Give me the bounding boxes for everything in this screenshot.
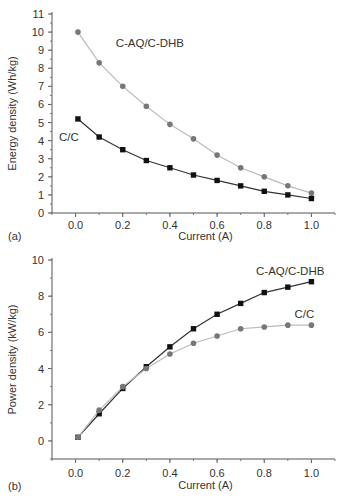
data-point-square: [191, 326, 196, 331]
data-point-circle: [167, 122, 173, 128]
x-tick-label: 0.4: [162, 219, 177, 231]
data-point-circle: [309, 322, 315, 328]
data-point-circle: [191, 136, 197, 142]
y-tick-label: 8: [38, 290, 44, 302]
data-point-circle: [309, 190, 315, 196]
y-tick-label: 9: [38, 44, 44, 56]
data-point-square: [214, 312, 219, 317]
data-point-circle: [120, 384, 126, 390]
data-point-circle: [285, 183, 291, 189]
y-tick-label: 2: [38, 399, 44, 411]
data-point-square: [120, 147, 125, 152]
data-point-circle: [238, 326, 244, 332]
x-tick-label: 1.0: [304, 219, 319, 231]
data-point-square: [238, 183, 243, 188]
series-label: C/C: [294, 308, 314, 320]
x-tick-label: 0.0: [68, 467, 83, 479]
y-tick-label: 6: [38, 98, 44, 110]
y-axis-label: Power density (kW/kg): [6, 304, 18, 414]
data-point-circle: [96, 407, 102, 413]
data-point-square: [285, 192, 290, 197]
x-tick-label: 0.2: [115, 467, 130, 479]
chart-panel-a: 012345678910110.00.20.40.60.81.0Current …: [6, 8, 335, 242]
x-tick-label: 0.8: [257, 219, 272, 231]
panel-label: (b): [8, 480, 21, 492]
y-tick-label: 11: [33, 8, 44, 20]
data-point-square: [75, 116, 80, 121]
series-line: [78, 282, 311, 438]
x-tick-label: 0.4: [162, 467, 177, 479]
x-tick-label: 1.0: [304, 467, 319, 479]
data-point-square: [191, 172, 196, 177]
data-point-circle: [75, 434, 81, 440]
y-tick-label: 7: [38, 80, 44, 92]
data-point-circle: [214, 333, 220, 339]
data-point-square: [214, 178, 219, 183]
data-point-square: [167, 344, 172, 349]
data-point-circle: [191, 340, 197, 346]
data-point-circle: [75, 29, 81, 35]
data-point-square: [167, 165, 172, 170]
y-tick-label: 5: [38, 117, 44, 129]
x-tick-label: 0.8: [257, 467, 272, 479]
data-point-square: [309, 279, 314, 284]
series-c-aq-c-dhb: C-AQ/C-DHB: [75, 29, 314, 196]
x-tick-label: 0.6: [209, 467, 224, 479]
data-point-square: [262, 290, 267, 295]
y-tick-label: 4: [38, 135, 44, 147]
data-point-circle: [167, 351, 173, 357]
series-line: [78, 119, 311, 199]
chart-panel-b: 02468100.00.20.40.60.81.0Current (A)Powe…: [6, 254, 335, 492]
data-point-circle: [214, 152, 220, 158]
data-point-circle: [261, 324, 267, 330]
data-point-circle: [261, 174, 267, 180]
data-point-circle: [96, 60, 102, 66]
data-point-circle: [120, 84, 126, 90]
y-tick-label: 1: [38, 189, 44, 201]
series-label: C-AQ/C-DHB: [256, 265, 325, 277]
y-tick-label: 10: [32, 26, 44, 38]
y-tick-label: 3: [38, 153, 44, 165]
data-point-square: [96, 134, 101, 139]
y-tick-label: 0: [38, 435, 44, 447]
series-label: C-AQ/C-DHB: [116, 37, 185, 49]
y-tick-label: 10: [32, 254, 44, 266]
data-point-square: [309, 196, 314, 201]
series-line: [78, 32, 311, 193]
data-point-circle: [285, 322, 291, 328]
data-point-circle: [238, 165, 244, 171]
y-axis-label: Energy density (Wh/kg): [6, 56, 18, 170]
y-tick-label: 8: [38, 62, 44, 74]
figure: 012345678910110.00.20.40.60.81.0Current …: [0, 0, 343, 502]
y-tick-label: 0: [38, 207, 44, 219]
series-label: C/C: [59, 131, 79, 143]
x-axis-label: Current (A): [178, 479, 232, 491]
data-point-circle: [144, 366, 150, 372]
y-tick-label: 6: [38, 326, 44, 338]
data-point-circle: [144, 103, 150, 109]
data-point-square: [238, 301, 243, 306]
x-tick-label: 0.0: [68, 219, 83, 231]
data-point-square: [144, 158, 149, 163]
series-c-c: C/C: [59, 116, 314, 201]
panel-label: (a): [8, 230, 21, 242]
x-tick-label: 0.2: [115, 219, 130, 231]
x-axis-label: Current (A): [178, 230, 232, 242]
series-c-aq-c-dhb: C-AQ/C-DHB: [75, 265, 324, 440]
y-tick-label: 4: [38, 363, 44, 375]
y-tick-label: 2: [38, 171, 44, 183]
data-point-square: [285, 284, 290, 289]
data-point-square: [262, 189, 267, 194]
